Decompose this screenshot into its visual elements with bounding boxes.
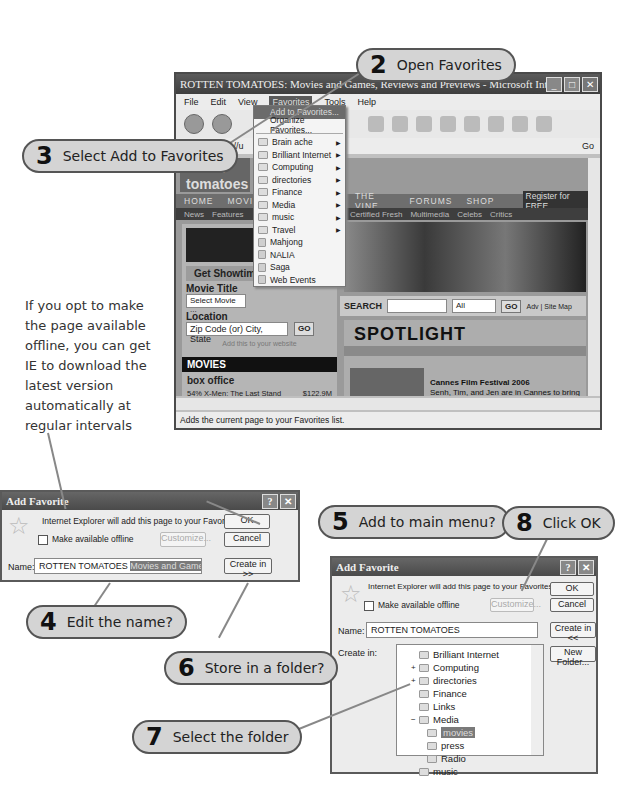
help-button[interactable]: ? bbox=[262, 494, 278, 509]
close-button[interactable]: ✕ bbox=[582, 77, 598, 92]
go-button[interactable]: Go bbox=[582, 141, 594, 151]
discuss-icon[interactable] bbox=[488, 116, 504, 132]
menu-file[interactable]: File bbox=[184, 97, 199, 107]
favorites-link[interactable]: Saga bbox=[254, 261, 345, 274]
spotlight-headline[interactable]: Cannes Film Festival 2006 bbox=[430, 378, 530, 387]
subnav-features[interactable]: Features bbox=[212, 210, 244, 219]
location-go-button[interactable]: GO bbox=[294, 322, 314, 336]
tree-item[interactable]: Finance bbox=[397, 687, 543, 700]
tree-item[interactable]: music bbox=[397, 765, 543, 778]
favorites-folder[interactable]: music▶ bbox=[254, 211, 345, 224]
add-favorite-dialog-expanded: Add Favorite ? ✕ ☆ Internet Explorer wil… bbox=[330, 556, 598, 774]
favorites-folder[interactable]: Brain ache▶ bbox=[254, 136, 345, 149]
vertical-scrollbar[interactable] bbox=[588, 158, 600, 396]
search-go-button[interactable]: GO bbox=[501, 300, 521, 313]
expand-icon[interactable]: + bbox=[411, 663, 419, 672]
search-scope-select[interactable]: All bbox=[452, 299, 496, 313]
offline-checkbox-row[interactable]: Make available offline bbox=[38, 534, 134, 545]
cancel-button[interactable]: Cancel bbox=[224, 532, 270, 547]
subnav-multimedia[interactable]: Multimedia bbox=[410, 210, 449, 219]
search-input[interactable] bbox=[387, 299, 447, 313]
history-icon[interactable] bbox=[392, 116, 408, 132]
spotlight-image[interactable] bbox=[350, 368, 424, 396]
help-button[interactable]: ? bbox=[560, 560, 576, 575]
submenu-arrow-icon: ▶ bbox=[336, 226, 341, 233]
tree-item[interactable]: +Computing bbox=[397, 661, 543, 674]
menu-help[interactable]: Help bbox=[357, 97, 376, 107]
favorites-folder[interactable]: Media▶ bbox=[254, 199, 345, 212]
tree-item-selected[interactable]: movies bbox=[397, 726, 543, 739]
folder-icon bbox=[258, 213, 268, 221]
offline-checkbox-row[interactable]: Make available offline bbox=[364, 600, 460, 611]
page-icon bbox=[258, 238, 266, 247]
expand-icon[interactable]: + bbox=[411, 676, 419, 685]
name-input[interactable]: ROTTEN TOMATOES bbox=[366, 622, 538, 638]
menu-edit[interactable]: Edit bbox=[211, 97, 227, 107]
name-input[interactable]: ROTTEN TOMATOES Movies and Games, Review… bbox=[34, 558, 202, 574]
callout-step-6: 6Store in a folder? bbox=[164, 651, 338, 685]
favorites-folder[interactable]: Computing▶ bbox=[254, 161, 345, 174]
create-in-button[interactable]: Create in >> bbox=[224, 558, 272, 574]
ok-button[interactable]: OK bbox=[550, 582, 594, 596]
favorites-folder[interactable]: Finance▶ bbox=[254, 186, 345, 199]
edit-icon[interactable] bbox=[464, 116, 480, 132]
create-in-button[interactable]: Create in << bbox=[550, 622, 596, 638]
back-icon[interactable] bbox=[184, 114, 204, 134]
collapse-icon[interactable]: − bbox=[411, 715, 419, 724]
nav-home[interactable]: HOME bbox=[184, 196, 214, 206]
site-nav: HOME MOVIES THE VINE FORUMS SHOP Registe… bbox=[176, 194, 588, 208]
subnav-celebs[interactable]: Celebs bbox=[457, 210, 482, 219]
folder-icon bbox=[419, 768, 429, 776]
favorites-star-icon[interactable] bbox=[368, 116, 384, 132]
favorites-folder[interactable]: directories▶ bbox=[254, 174, 345, 187]
favorites-link[interactable]: NALIA bbox=[254, 249, 345, 262]
print-icon[interactable] bbox=[440, 116, 456, 132]
new-folder-button[interactable]: New Folder... bbox=[550, 646, 596, 662]
tree-item[interactable]: +directories bbox=[397, 674, 543, 687]
favorites-link[interactable]: Mahjong bbox=[254, 236, 345, 249]
messenger-icon[interactable] bbox=[536, 116, 552, 132]
offline-checkbox[interactable] bbox=[38, 535, 48, 545]
tree-item[interactable]: Radio bbox=[397, 752, 543, 765]
horizontal-scrollbar[interactable] bbox=[176, 398, 600, 410]
location-input[interactable]: Zip Code (or) City, State bbox=[186, 322, 288, 336]
ie-window: ROTTEN TOMATOES: Movies and Games, Revie… bbox=[174, 72, 602, 430]
dialog-message: Internet Explorer will add this page to … bbox=[42, 516, 253, 526]
favorites-folder[interactable]: Travel▶ bbox=[254, 224, 345, 237]
dialog-close-button[interactable]: ✕ bbox=[578, 560, 594, 575]
tree-item[interactable]: Brilliant Internet bbox=[397, 648, 543, 661]
nav-shop[interactable]: SHOP bbox=[466, 196, 494, 206]
minimize-button[interactable]: _ bbox=[546, 77, 562, 92]
subnav-news[interactable]: News bbox=[184, 210, 204, 219]
address-bar[interactable]: http://u Go bbox=[176, 138, 600, 154]
create-in-label: Create in: bbox=[338, 648, 377, 658]
subnav-certified-fresh[interactable]: Certified Fresh bbox=[350, 210, 402, 219]
movie-select[interactable]: Select Movie ... bbox=[186, 294, 246, 308]
research-icon[interactable] bbox=[512, 116, 528, 132]
tree-item[interactable]: −Media bbox=[397, 713, 543, 726]
offline-checkbox[interactable] bbox=[364, 601, 374, 611]
dialog-close-button[interactable]: ✕ bbox=[280, 494, 296, 509]
tree-scrollbar[interactable] bbox=[531, 645, 543, 755]
dialog-message: Internet Explorer will add this page to … bbox=[368, 582, 567, 591]
mail-icon[interactable] bbox=[416, 116, 432, 132]
subnav-critics[interactable]: Critics bbox=[490, 210, 512, 219]
customize-button[interactable]: Customize... bbox=[490, 598, 534, 612]
box-office-row[interactable]: 54% X-Men: The Last Stand$122.9M bbox=[182, 389, 337, 396]
folder-icon bbox=[258, 226, 268, 234]
cancel-button[interactable]: Cancel bbox=[550, 598, 594, 612]
customize-button[interactable]: Customize... bbox=[160, 532, 206, 547]
dialog-title: Add Favorite bbox=[6, 495, 262, 507]
ok-button[interactable]: OK bbox=[224, 514, 270, 529]
tree-item[interactable]: Links bbox=[397, 700, 543, 713]
favorites-folder[interactable]: Brilliant Internet▶ bbox=[254, 149, 345, 162]
forward-icon[interactable] bbox=[212, 114, 232, 134]
nav-forums[interactable]: FORUMS bbox=[410, 196, 453, 206]
folder-icon bbox=[419, 651, 429, 659]
favorites-link[interactable]: Web Events bbox=[254, 274, 345, 287]
tree-item[interactable]: press bbox=[397, 739, 543, 752]
maximize-button[interactable]: □ bbox=[564, 77, 580, 92]
search-links[interactable]: Adv | Site Map bbox=[526, 303, 571, 310]
menu-item-organize-favorites[interactable]: Organize Favorites... bbox=[254, 119, 345, 132]
banner-photo[interactable] bbox=[344, 222, 586, 292]
